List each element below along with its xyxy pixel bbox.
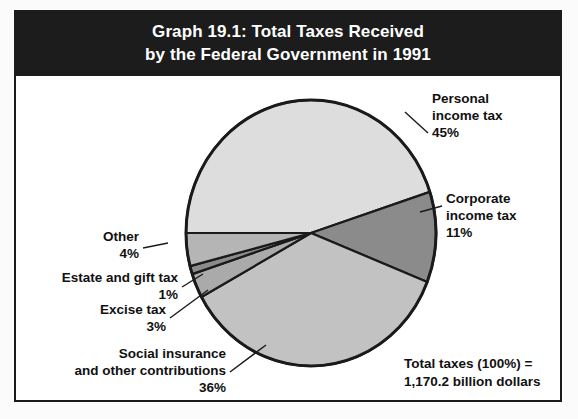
label-corporate-income-tax: Corporate income tax 11% <box>446 190 517 241</box>
label-excise-line-1: Excise tax <box>0 301 166 318</box>
pie-slices <box>186 100 436 366</box>
label-personal-line-1: Personal <box>432 90 503 107</box>
label-social-line-1: Social insurance <box>0 345 226 362</box>
label-other: Other 4% <box>0 228 139 262</box>
total-note-line-2: 1,170.2 billion dollars <box>404 373 541 391</box>
label-social-value: 36% <box>0 379 226 396</box>
label-corporate-line-1: Corporate <box>446 190 517 207</box>
label-personal-line-2: income tax <box>432 107 503 124</box>
total-taxes-note: Total taxes (100%) = 1,170.2 billion dol… <box>404 355 541 391</box>
figure-root: Graph 19.1: Total Taxes Received by the … <box>0 0 578 419</box>
label-other-line-1: Other <box>0 228 139 245</box>
label-estate-and-gift-tax: Estate and gift tax 1% <box>0 269 178 303</box>
label-excise-value: 3% <box>0 318 166 335</box>
label-personal-value: 45% <box>432 124 503 141</box>
label-corporate-value: 11% <box>446 224 517 241</box>
leader-line-personal <box>405 112 428 133</box>
label-excise-tax: Excise tax 3% <box>0 301 166 335</box>
label-corporate-line-2: income tax <box>446 207 517 224</box>
label-personal-income-tax: Personal income tax 45% <box>432 90 503 141</box>
label-estate-line-1: Estate and gift tax <box>0 269 178 286</box>
label-social-line-2: and other contributions <box>0 362 226 379</box>
label-social-insurance: Social insurance and other contributions… <box>0 345 226 396</box>
leader-line-other <box>143 243 168 248</box>
total-note-line-1: Total taxes (100%) = <box>404 355 541 373</box>
label-other-value: 4% <box>0 245 139 262</box>
